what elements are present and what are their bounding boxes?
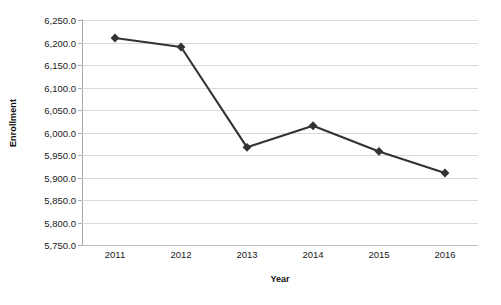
line-chart: Enrollment 6,250.06,200.06,150.06,100.06…	[0, 0, 501, 305]
y-axis-tick-label: 6,200.0	[44, 37, 76, 48]
y-axis-tick-label: 5,800.0	[44, 217, 76, 228]
y-axis-tick-label: 6,250.0	[44, 15, 76, 26]
gridline	[82, 245, 478, 246]
data-point-marker	[441, 169, 450, 178]
y-axis-title-label: Enrollment	[8, 98, 18, 146]
y-axis-tick-label: 6,050.0	[44, 105, 76, 116]
y-axis-tick-labels: 6,250.06,200.06,150.06,100.06,050.06,000…	[26, 20, 80, 245]
data-point-marker	[309, 121, 318, 130]
x-axis-tick-label: 2013	[236, 249, 257, 260]
y-axis-tick-label: 6,000.0	[44, 127, 76, 138]
x-axis-tick-label: 2015	[368, 249, 389, 260]
data-point-marker	[111, 34, 120, 43]
x-axis-tick-label: 2014	[302, 249, 323, 260]
x-axis-title: Year	[82, 274, 478, 284]
x-axis-tick-label: 2012	[170, 249, 191, 260]
data-point-marker	[375, 147, 384, 156]
data-series-enrollment	[82, 20, 478, 245]
x-axis-tick-label: 2016	[434, 249, 455, 260]
y-axis-tick-label: 5,750.0	[44, 240, 76, 251]
y-axis-title: Enrollment	[0, 0, 26, 245]
y-axis-tick-label: 6,100.0	[44, 82, 76, 93]
x-axis-tick-labels: 201120122013201420152016	[82, 249, 478, 265]
y-axis-tick-label: 6,150.0	[44, 60, 76, 71]
y-axis-tick-label: 5,900.0	[44, 172, 76, 183]
series-line	[115, 38, 445, 173]
y-axis-tick-label: 5,850.0	[44, 195, 76, 206]
plot-area	[82, 20, 478, 245]
x-axis-tick-label: 2011	[105, 249, 125, 260]
y-axis-tick-mark	[78, 245, 82, 246]
y-axis-tick-label: 5,950.0	[44, 150, 76, 161]
